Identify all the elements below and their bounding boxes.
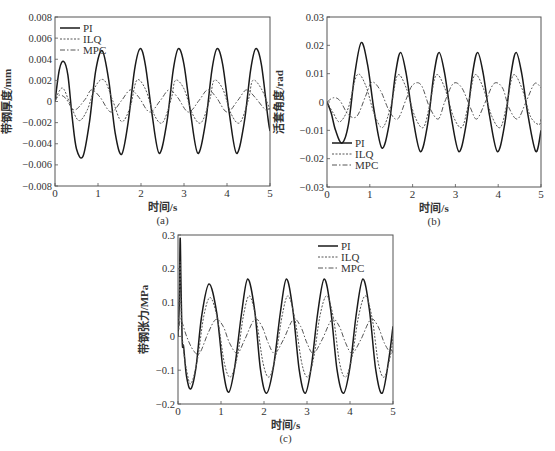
y-tick-label: −0.002: [22, 117, 52, 128]
x-tick-label: 1: [367, 188, 373, 200]
axes-frame: [178, 235, 393, 404]
y-tick-label: −0.03: [300, 182, 324, 193]
y-tick-label: 0.01: [306, 68, 324, 79]
x-axis-label: 时间/s: [271, 418, 301, 431]
x-tick-label: 5: [390, 405, 396, 417]
figure: 012345−0.008−0.006−0.004−0.00200.0020.00…: [0, 0, 555, 451]
plot-area: [55, 49, 270, 158]
series-mpc: [55, 90, 270, 112]
y-tick-label: 0.006: [28, 33, 52, 44]
x-tick-label: 4: [347, 405, 353, 417]
x-axis-label: 时间/s: [419, 201, 449, 214]
y-tick-label: 0.1: [162, 297, 175, 308]
series-pi: [327, 42, 541, 151]
chart-strip-tension: 012345−0.2−0.100.10.20.3时间/s(c)带钢张力/MPaP…: [137, 230, 396, 446]
y-tick-label: 0.004: [28, 54, 52, 65]
x-axis-label: 时间/s: [148, 200, 178, 213]
x-tick-label: 0: [324, 188, 330, 200]
panel-caption: (c): [279, 432, 292, 445]
y-axis-label: 带钢厚度/mm: [0, 69, 13, 134]
chart-strip-thickness: 012345−0.008−0.006−0.004−0.00200.0020.00…: [0, 12, 273, 228]
x-tick-label: 0: [175, 405, 181, 417]
plot-area: [327, 42, 541, 151]
legend-label-mpc: MPC: [341, 262, 364, 274]
y-tick-label: −0.02: [300, 153, 324, 164]
y-tick-label: 0.008: [28, 12, 52, 23]
y-axis-label: 带钢张力/MPa: [137, 284, 150, 354]
x-tick-label: 3: [304, 405, 310, 417]
legend-label-mpc: MPC: [83, 44, 106, 56]
x-tick-label: 5: [267, 187, 273, 199]
series-ilq: [327, 74, 541, 128]
x-tick-label: 3: [453, 188, 459, 200]
y-tick-label: −0.006: [22, 159, 52, 170]
y-tick-label: 0: [319, 97, 324, 108]
y-tick-label: −0.004: [22, 138, 52, 149]
y-tick-label: 0.002: [28, 75, 52, 86]
y-tick-label: 0.03: [306, 12, 324, 23]
series-pi: [55, 49, 270, 158]
x-tick-label: 1: [95, 187, 101, 199]
x-tick-label: 4: [495, 188, 501, 200]
x-tick-label: 2: [410, 188, 416, 200]
chart-looper-angle: 012345−0.03−0.02−0.0100.010.020.03时间/s(b…: [272, 12, 544, 229]
series-mpc: [178, 319, 393, 355]
x-tick-label: 3: [181, 187, 187, 199]
y-tick-label: 0.3: [162, 230, 175, 241]
panel-caption: (a): [156, 214, 169, 227]
y-tick-label: −0.01: [300, 125, 324, 136]
x-tick-label: 2: [138, 187, 144, 199]
x-tick-label: 5: [538, 188, 544, 200]
legend: PIILQMPC: [332, 137, 378, 171]
y-axis-label: 活套角度/rad: [272, 70, 285, 134]
legend: PIILQMPC: [60, 22, 106, 56]
x-tick-label: 4: [224, 187, 230, 199]
y-tick-label: −0.1: [156, 365, 175, 376]
y-tick-label: −0.008: [22, 181, 52, 192]
y-tick-label: 0.2: [162, 263, 175, 274]
x-tick-label: 0: [52, 187, 58, 199]
y-tick-label: 0.02: [306, 40, 324, 51]
x-tick-label: 1: [218, 405, 224, 417]
y-tick-label: −0.2: [156, 399, 175, 410]
x-tick-label: 2: [261, 405, 267, 417]
figure-svg: 012345−0.008−0.006−0.004−0.00200.0020.00…: [0, 0, 555, 451]
panel-caption: (b): [428, 215, 441, 228]
y-tick-label: 0: [170, 331, 175, 342]
legend: PIILQMPC: [318, 240, 364, 274]
legend-label-mpc: MPC: [355, 159, 378, 171]
y-tick-label: 0: [47, 96, 52, 107]
series-ilq: [55, 79, 270, 123]
